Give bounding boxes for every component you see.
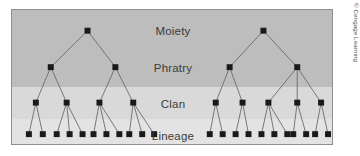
node-moiety[interactable] bbox=[260, 28, 266, 34]
node-phratry[interactable] bbox=[294, 64, 300, 70]
edge-moiety-phratry bbox=[263, 31, 297, 67]
node-lineage[interactable] bbox=[246, 131, 252, 137]
edge-phratry-clan bbox=[51, 67, 67, 102]
edge-clan-lineage bbox=[297, 103, 306, 135]
edge-phratry-clan bbox=[99, 67, 115, 102]
node-phratry[interactable] bbox=[112, 64, 118, 70]
copyright-credit: © Cengage Learning bbox=[353, 3, 360, 62]
node-lineage[interactable] bbox=[54, 131, 60, 137]
edge-clan-lineage bbox=[236, 103, 243, 135]
edge-phratry-clan bbox=[268, 67, 297, 102]
edge-clan-lineage bbox=[243, 103, 249, 135]
node-phratry[interactable] bbox=[48, 64, 54, 70]
edge-phratry-clan bbox=[115, 67, 133, 102]
node-lineage[interactable] bbox=[116, 131, 122, 137]
edge-phratry-clan bbox=[216, 67, 230, 102]
tree-graphics bbox=[12, 10, 332, 144]
node-clan[interactable] bbox=[294, 100, 300, 106]
edge-clan-lineage bbox=[57, 103, 67, 135]
node-lineage[interactable] bbox=[40, 131, 46, 137]
node-lineage[interactable] bbox=[233, 131, 239, 137]
node-clan[interactable] bbox=[33, 100, 39, 106]
node-clan[interactable] bbox=[318, 100, 324, 106]
edge-clan-lineage bbox=[93, 103, 99, 135]
edge-phratry-clan bbox=[36, 67, 51, 102]
node-lineage[interactable] bbox=[26, 131, 32, 137]
node-clan[interactable] bbox=[265, 100, 271, 106]
node-clan[interactable] bbox=[213, 100, 219, 106]
edge-clan-lineage bbox=[210, 103, 216, 135]
node-lineage[interactable] bbox=[207, 131, 213, 137]
edge-clan-lineage bbox=[315, 103, 321, 135]
node-lineage[interactable] bbox=[80, 131, 86, 137]
edge-clan-lineage bbox=[36, 103, 43, 135]
node-lineage[interactable] bbox=[103, 131, 109, 137]
node-lineage[interactable] bbox=[220, 131, 226, 137]
node-lineage[interactable] bbox=[290, 131, 296, 137]
node-lineage[interactable] bbox=[284, 131, 290, 137]
edge-clan-lineage bbox=[216, 103, 223, 135]
edge-clan-lineage bbox=[29, 103, 36, 135]
edge-phratry-clan bbox=[230, 67, 243, 102]
edge-moiety-phratry bbox=[88, 31, 116, 67]
node-lineage[interactable] bbox=[312, 131, 318, 137]
node-moiety[interactable] bbox=[85, 28, 91, 34]
edge-clan-lineage bbox=[129, 103, 133, 135]
node-lineage[interactable] bbox=[139, 131, 145, 137]
node-clan[interactable] bbox=[240, 100, 246, 106]
edge-moiety-phratry bbox=[51, 31, 88, 67]
node-lineage[interactable] bbox=[303, 131, 309, 137]
edge-clan-lineage bbox=[261, 103, 268, 135]
node-lineage[interactable] bbox=[325, 131, 331, 137]
node-lineage[interactable] bbox=[271, 131, 277, 137]
node-clan[interactable] bbox=[96, 100, 102, 106]
edge-moiety-phratry bbox=[230, 31, 264, 67]
node-lineage[interactable] bbox=[126, 131, 132, 137]
node-lineage[interactable] bbox=[258, 131, 264, 137]
node-lineage[interactable] bbox=[67, 131, 73, 137]
edge-clan-lineage bbox=[293, 103, 297, 135]
node-clan[interactable] bbox=[130, 100, 136, 106]
node-lineage[interactable] bbox=[91, 131, 97, 137]
node-clan[interactable] bbox=[64, 100, 70, 106]
edge-phratry-clan bbox=[297, 67, 321, 102]
edge-clan-lineage bbox=[321, 103, 328, 135]
edge-clan-lineage bbox=[133, 103, 142, 135]
edge-clan-lineage bbox=[99, 103, 119, 135]
edge-clan-lineage bbox=[133, 103, 154, 135]
node-phratry[interactable] bbox=[227, 64, 233, 70]
node-lineage[interactable] bbox=[151, 131, 157, 137]
diagram-frame: MoietyPhratryClanLineage bbox=[11, 9, 333, 145]
